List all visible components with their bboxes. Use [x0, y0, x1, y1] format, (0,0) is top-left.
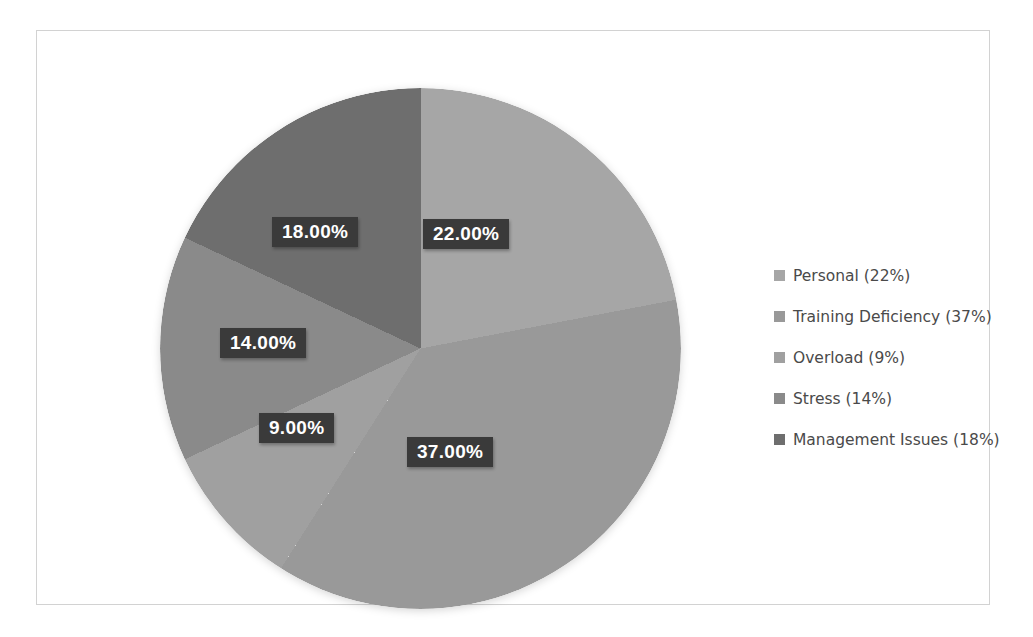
- legend-label-training-deficiency: Training Deficiency (37%): [793, 308, 992, 326]
- legend-item-personal[interactable]: Personal (22%): [774, 255, 1014, 296]
- data-label-training-deficiency: 37.00%: [407, 437, 493, 467]
- legend-item-training-deficiency[interactable]: Training Deficiency (37%): [774, 296, 1014, 337]
- legend-label-stress: Stress (14%): [793, 390, 892, 408]
- data-label-management-issues: 18.00%: [272, 217, 358, 247]
- legend-label-personal: Personal (22%): [793, 267, 910, 285]
- chart-frame: 22.00% 37.00% 9.00% 14.00% 18.00% Person…: [36, 30, 990, 605]
- legend-swatch-icon-management-issues: [774, 434, 785, 445]
- legend-label-overload: Overload (9%): [793, 349, 905, 367]
- legend-swatch-icon-stress: [774, 393, 785, 404]
- legend-item-stress[interactable]: Stress (14%): [774, 378, 1014, 419]
- legend-swatch-icon-personal: [774, 270, 785, 281]
- legend-label-management-issues: Management Issues (18%): [793, 431, 1000, 449]
- data-label-overload: 9.00%: [259, 413, 334, 443]
- legend-item-management-issues[interactable]: Management Issues (18%): [774, 419, 1014, 460]
- legend-item-overload[interactable]: Overload (9%): [774, 337, 1014, 378]
- chart-legend: Personal (22%) Training Deficiency (37%)…: [774, 255, 1014, 460]
- pie-chart-screenshot: 22.00% 37.00% 9.00% 14.00% 18.00% Person…: [0, 0, 1033, 637]
- data-label-personal: 22.00%: [423, 219, 509, 249]
- legend-swatch-icon-training-deficiency: [774, 311, 785, 322]
- legend-swatch-icon-overload: [774, 352, 785, 363]
- data-label-stress: 14.00%: [220, 328, 306, 358]
